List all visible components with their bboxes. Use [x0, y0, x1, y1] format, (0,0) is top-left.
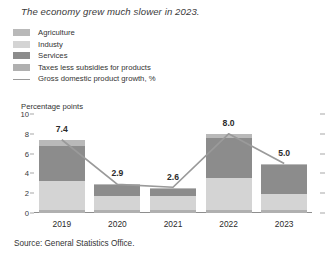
bar-value-label: 2.9: [94, 168, 140, 178]
y-axis-tick-mark: [30, 114, 34, 115]
y-axis-tick-label: 0: [25, 209, 29, 218]
y-axis-tick-mark-right: [320, 133, 325, 134]
y-axis-tick-mark-right: [320, 173, 325, 174]
x-axis-tick-label: 2020: [94, 219, 140, 229]
legend-item-label: Agriculture: [38, 29, 75, 37]
legend-item-label: Gross domestic product growth, %: [38, 75, 156, 83]
y-axis-tick-label: 10: [20, 110, 29, 119]
bar-value-label: 5.0: [261, 148, 307, 158]
x-axis-tick-label: 2022: [206, 219, 252, 229]
bar-segment: [94, 185, 140, 196]
stacked-bar[interactable]: [261, 164, 307, 214]
stacked-bar[interactable]: [94, 184, 140, 213]
legend-color-swatch: [13, 41, 30, 48]
legend-item-label: Services: [38, 52, 67, 60]
bar-segment: [39, 146, 85, 182]
y-axis-tick-mark-right: [320, 193, 325, 194]
bar-group[interactable]: 2.92020: [94, 114, 140, 213]
bar-segment: [206, 178, 252, 209]
stacked-bar[interactable]: [39, 140, 85, 213]
bar-segment: [150, 196, 196, 210]
y-axis-tick-label: 4: [25, 169, 29, 178]
bar-group[interactable]: 7.42019: [39, 114, 85, 213]
y-axis-tick-mark: [30, 213, 34, 214]
y-axis-tick-mark: [30, 173, 34, 174]
legend-item[interactable]: Services: [13, 50, 253, 62]
legend-item[interactable]: Agriculture: [13, 27, 253, 39]
y-axis-tick-label: 8: [25, 129, 29, 138]
stacked-bar[interactable]: [206, 134, 252, 213]
legend-item[interactable]: Taxes less subsidies for products: [13, 62, 253, 74]
bar-segment: [261, 194, 307, 209]
legend-color-swatch: [13, 64, 30, 71]
bar-value-label: 2.6: [150, 172, 196, 182]
y-axis-tick-mark-right: [320, 153, 325, 154]
bar-group[interactable]: 2.62021: [150, 114, 196, 213]
bar-group[interactable]: 8.02022: [206, 114, 252, 213]
legend-color-swatch: [13, 29, 30, 36]
x-axis-tick-label: 2019: [39, 219, 85, 229]
bar-segment: [261, 210, 307, 213]
bar-value-label: 7.4: [39, 124, 85, 134]
bar-segment: [150, 189, 196, 196]
stacked-bar[interactable]: [150, 188, 196, 213]
chart-figure: The economy grew much slower in 2023. Ag…: [0, 0, 332, 259]
bar-segment: [206, 210, 252, 213]
plot-area: 7.420192.920202.620218.020225.02023 0246…: [34, 114, 312, 213]
bar-segment: [39, 210, 85, 213]
y-axis-tick-mark: [30, 153, 34, 154]
x-axis-tick-label: 2021: [150, 219, 196, 229]
x-axis-tick-label: 2023: [261, 219, 307, 229]
legend-item[interactable]: Gross domestic product growth, %: [13, 73, 253, 85]
source-note: Source: General Statistics Office.: [14, 239, 134, 248]
y-axis-unit-label: Percentage points: [21, 102, 83, 111]
bar-segment: [94, 210, 140, 213]
chart-title: The economy grew much slower in 2023.: [21, 6, 200, 17]
y-axis-tick-label: 2: [25, 189, 29, 198]
legend-item-label: Taxes less subsidies for products: [38, 64, 151, 72]
y-axis-tick-mark-right: [320, 213, 325, 214]
legend-item-label: Industy: [38, 41, 63, 49]
bar-segment: [39, 181, 85, 209]
y-axis-tick-label: 6: [25, 149, 29, 158]
y-axis-tick-mark-right: [320, 114, 325, 115]
bar-segment: [261, 165, 307, 194]
bar-segment: [94, 196, 140, 210]
legend-color-swatch: [13, 52, 30, 59]
chart-legend: AgricultureIndustyServicesTaxes less sub…: [13, 27, 253, 85]
bar-segment: [150, 210, 196, 213]
bar-value-label: 8.0: [206, 118, 252, 128]
y-axis-tick-mark: [30, 133, 34, 134]
y-axis-tick-mark: [30, 193, 34, 194]
bar-series-container: 7.420192.920202.620218.020225.02023: [34, 114, 312, 213]
legend-item[interactable]: Industy: [13, 39, 253, 51]
legend-line-marker: [13, 76, 30, 83]
bar-segment: [206, 138, 252, 179]
bar-group[interactable]: 5.02023: [261, 114, 307, 213]
